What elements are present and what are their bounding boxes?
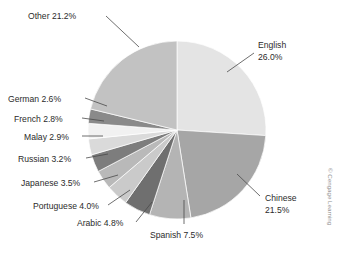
pie-slices-group: English 26.0%Chinese 21.5%Spanish 7.5%Ar…	[88, 41, 266, 219]
slice-label-chinese-pct: 21.5%	[265, 205, 290, 215]
slice-label-other: Other 21.2%	[28, 11, 77, 21]
copyright-credit: © Cengage Learning	[327, 168, 334, 226]
slice-label-spanish: Spanish 7.5%	[150, 230, 203, 240]
slice-label-japanese: Japanese 3.5%	[21, 178, 81, 188]
pie-chart-figure: English 26.0%Chinese 21.5%Spanish 7.5%Ar…	[0, 0, 337, 255]
leader-line-other	[106, 16, 139, 47]
pie-slice-chinese[interactable]: Chinese 21.5%	[177, 130, 266, 218]
slice-label-german: German 2.6%	[8, 94, 61, 104]
slice-label-chinese: Chinese	[265, 193, 297, 203]
slice-label-russian: Russian 3.2%	[18, 154, 71, 164]
slice-label-malay: Malay 2.9%	[24, 132, 69, 142]
slice-label-french: French 2.8%	[14, 114, 63, 124]
slice-label-arabic: Arabic 4.8%	[77, 218, 124, 228]
slice-label-english: English	[258, 40, 286, 50]
pie-slice-english[interactable]: English 26.0%	[177, 41, 266, 136]
slice-label-portuguese: Portuguese 4.0%	[33, 201, 99, 211]
slice-label-english-pct: 26.0%	[258, 52, 283, 62]
pie-chart-svg: English 26.0%Chinese 21.5%Spanish 7.5%Ar…	[0, 0, 337, 255]
